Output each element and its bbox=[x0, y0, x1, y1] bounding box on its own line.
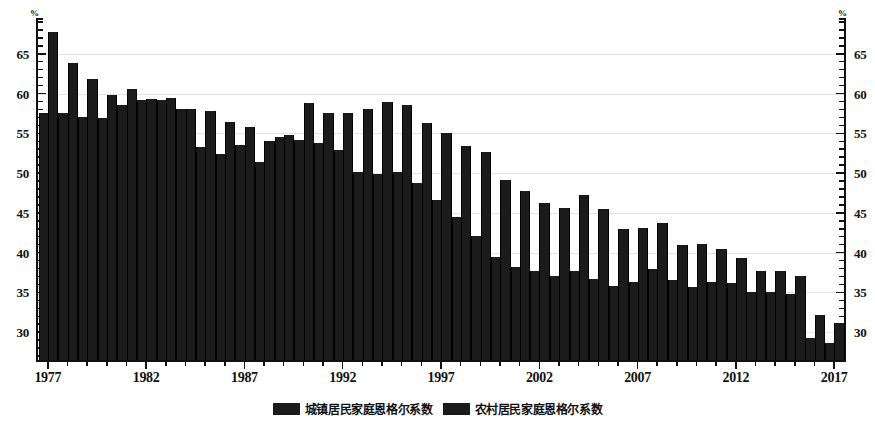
y-axis-left-tick-label: 30 bbox=[0, 326, 29, 339]
x-tick-minor bbox=[460, 362, 462, 366]
y-tick-minor bbox=[839, 101, 844, 103]
bar bbox=[598, 209, 608, 360]
x-axis-tick-label: 2007 bbox=[624, 370, 651, 386]
y-tick-major bbox=[836, 212, 844, 214]
y-axis-right-unit: % bbox=[838, 8, 847, 18]
y-tick-minor bbox=[38, 77, 43, 79]
y-tick-minor bbox=[839, 148, 844, 150]
y-tick-minor bbox=[839, 45, 844, 47]
x-tick-major bbox=[440, 362, 442, 369]
x-tick-major bbox=[833, 362, 835, 369]
bar bbox=[500, 180, 510, 360]
y-tick-minor bbox=[839, 180, 844, 182]
x-tick-minor bbox=[774, 362, 776, 366]
x-tick-major bbox=[637, 362, 639, 369]
legend-item-urban: 城镇居民家庭恩格尔系数 bbox=[273, 400, 433, 417]
x-tick-minor bbox=[381, 362, 383, 366]
bar bbox=[539, 203, 549, 360]
x-axis-tick-label: 1987 bbox=[231, 370, 258, 386]
y-tick-minor bbox=[839, 228, 844, 230]
y-tick-minor bbox=[839, 61, 844, 63]
bar bbox=[304, 103, 314, 360]
y-tick-minor bbox=[839, 276, 844, 278]
x-axis-tick-label: 1992 bbox=[329, 370, 356, 386]
x-tick-minor bbox=[794, 362, 796, 366]
x-tick-minor bbox=[558, 362, 560, 366]
y-axis-left-tick-label: 55 bbox=[0, 127, 29, 140]
bar bbox=[68, 63, 78, 360]
bar bbox=[677, 245, 687, 360]
bar bbox=[343, 113, 353, 360]
y-tick-minor bbox=[839, 196, 844, 198]
x-tick-minor bbox=[224, 362, 226, 366]
y-tick-minor bbox=[38, 61, 43, 63]
x-axis-tick-label: 2012 bbox=[722, 370, 749, 386]
y-tick-minor bbox=[839, 188, 844, 190]
y-tick-minor bbox=[839, 77, 844, 79]
bar bbox=[815, 315, 825, 360]
bar bbox=[205, 111, 215, 360]
y-axis-left-tick-label: 35 bbox=[0, 286, 29, 299]
x-tick-major bbox=[539, 362, 541, 369]
y-tick-minor bbox=[839, 260, 844, 262]
y-tick-major bbox=[836, 292, 844, 294]
y-tick-minor bbox=[839, 268, 844, 270]
x-tick-major bbox=[145, 362, 147, 369]
bar bbox=[225, 122, 235, 360]
y-tick-minor bbox=[839, 284, 844, 286]
bar bbox=[441, 133, 451, 360]
bar bbox=[579, 195, 589, 360]
bar bbox=[107, 95, 117, 360]
x-tick-minor bbox=[283, 362, 285, 366]
x-axis-tick-label: 1977 bbox=[34, 370, 61, 386]
y-axis-left-unit: % bbox=[30, 8, 39, 18]
y-tick-minor bbox=[38, 29, 43, 31]
y-tick-minor bbox=[839, 21, 844, 23]
bar bbox=[618, 229, 628, 360]
bar bbox=[716, 249, 726, 360]
y-tick-minor bbox=[839, 236, 844, 238]
y-tick-major bbox=[836, 93, 844, 95]
bar bbox=[284, 135, 294, 360]
x-tick-minor bbox=[598, 362, 600, 366]
x-tick-major bbox=[47, 362, 49, 369]
bar bbox=[481, 152, 491, 360]
x-tick-major bbox=[244, 362, 246, 369]
bar bbox=[402, 105, 412, 360]
y-tick-minor bbox=[839, 69, 844, 71]
y-tick-minor bbox=[839, 156, 844, 158]
y-tick-minor bbox=[839, 141, 844, 143]
legend-swatch-rural bbox=[443, 403, 470, 415]
bar bbox=[775, 271, 785, 360]
x-tick-major bbox=[735, 362, 737, 369]
y-tick-major bbox=[836, 252, 844, 254]
y-tick-major bbox=[38, 93, 46, 95]
y-axis-right-cap bbox=[839, 18, 846, 20]
bar bbox=[146, 99, 156, 360]
y-axis-right-tick-label: 45 bbox=[854, 207, 875, 220]
x-tick-minor bbox=[480, 362, 482, 366]
x-tick-major bbox=[342, 362, 344, 369]
gridline bbox=[38, 94, 844, 95]
bar bbox=[736, 258, 746, 360]
bar bbox=[87, 79, 97, 360]
bar bbox=[323, 113, 333, 360]
bar bbox=[166, 98, 176, 360]
y-tick-major bbox=[836, 53, 844, 55]
x-tick-minor bbox=[322, 362, 324, 366]
x-axis-tick-label: 1997 bbox=[428, 370, 455, 386]
y-tick-major bbox=[836, 172, 844, 174]
bar bbox=[382, 102, 392, 360]
bar bbox=[48, 32, 58, 360]
x-tick-minor bbox=[656, 362, 658, 366]
y-tick-minor bbox=[839, 117, 844, 119]
x-tick-minor bbox=[696, 362, 698, 366]
x-tick-minor bbox=[401, 362, 403, 366]
y-tick-minor bbox=[839, 29, 844, 31]
y-tick-minor bbox=[38, 21, 43, 23]
x-tick-minor bbox=[263, 362, 265, 366]
x-tick-minor bbox=[617, 362, 619, 366]
x-axis-tick-label: 2017 bbox=[821, 370, 848, 386]
bar bbox=[697, 244, 707, 360]
y-axis-right-line bbox=[844, 18, 846, 362]
